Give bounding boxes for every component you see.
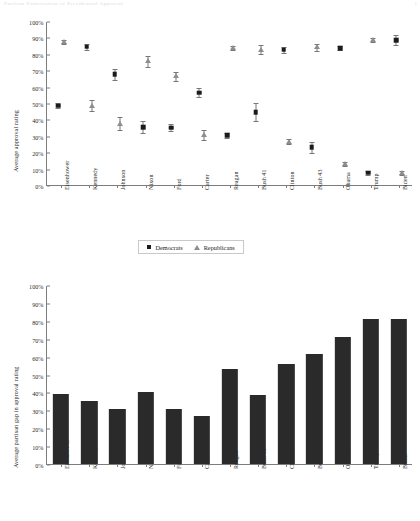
legend-item-democrats: Democrats bbox=[147, 244, 183, 251]
x-axis-label-bush-43: Bush 43 bbox=[317, 170, 323, 191]
y-axis-tick: 60% bbox=[32, 84, 47, 91]
y-axis-tick: 30% bbox=[32, 408, 47, 415]
triangle-marker-icon bbox=[201, 132, 207, 137]
x-axis-tick bbox=[230, 185, 231, 188]
error-bar-cap bbox=[117, 117, 122, 118]
error-bar-cap bbox=[140, 121, 145, 122]
error-bar-cap bbox=[315, 51, 320, 52]
bar-obama bbox=[334, 337, 350, 464]
y-axis-tick: 100% bbox=[29, 19, 47, 26]
x-axis-label-biden: Biden bbox=[402, 175, 408, 190]
triangle-marker-icon bbox=[399, 170, 405, 175]
square-marker-icon bbox=[225, 133, 230, 138]
y-axis-tick: 10% bbox=[32, 166, 47, 173]
bar-ford bbox=[166, 409, 182, 464]
x-axis-label-johnson: Johnson bbox=[120, 170, 126, 190]
y-axis-tick: 20% bbox=[32, 150, 47, 157]
x-axis-tick bbox=[286, 185, 287, 188]
triangle-marker-icon bbox=[258, 47, 264, 52]
y-axis-tick: 80% bbox=[32, 318, 47, 325]
triangle-marker-icon bbox=[145, 58, 151, 63]
error-bar-cap bbox=[89, 100, 94, 101]
x-axis-tick bbox=[371, 185, 372, 188]
error-bar-cap bbox=[253, 103, 258, 104]
x-axis-label-clinton: Clinton bbox=[289, 171, 295, 190]
bar-bush-43 bbox=[306, 354, 322, 464]
square-marker-icon bbox=[84, 44, 89, 49]
triangle-marker-icon bbox=[342, 161, 348, 166]
error-bar-cap bbox=[394, 35, 399, 36]
x-axis-tick bbox=[61, 185, 62, 188]
y-axis-tick: 20% bbox=[32, 426, 47, 433]
square-marker-icon bbox=[147, 245, 151, 249]
x-axis-label-kennedy: Kennedy bbox=[92, 168, 98, 190]
error-bar-cap bbox=[84, 50, 89, 51]
error-bar-cap bbox=[309, 142, 314, 143]
error-bar-cap bbox=[197, 88, 202, 89]
square-marker-icon bbox=[366, 171, 371, 176]
x-axis-label-trump: Trump bbox=[373, 173, 379, 190]
y-axis-tick: 90% bbox=[32, 35, 47, 42]
x-axis-tick bbox=[258, 185, 259, 188]
x-axis-tick bbox=[146, 464, 147, 467]
x-axis-label-obama: Obama bbox=[345, 172, 351, 190]
bar-carter bbox=[194, 416, 210, 464]
error-bar-cap bbox=[89, 111, 94, 112]
bar-trump bbox=[363, 319, 379, 464]
error-bar-cap bbox=[112, 69, 117, 70]
triangle-marker-icon bbox=[61, 39, 67, 44]
x-axis-label-nixon: Nixon bbox=[148, 175, 154, 190]
bar-bush-41 bbox=[250, 395, 266, 464]
error-bar-cap bbox=[202, 130, 207, 131]
error-bar-cap bbox=[309, 153, 314, 154]
error-bar-cap bbox=[146, 56, 151, 57]
x-axis-tick bbox=[343, 464, 344, 467]
y-axis-tick: 0% bbox=[35, 183, 47, 190]
x-axis-tick bbox=[343, 185, 344, 188]
x-axis-tick bbox=[61, 464, 62, 467]
triangle-marker-icon bbox=[173, 73, 179, 78]
triangle-marker-icon bbox=[117, 121, 123, 126]
y-axis-tick: 70% bbox=[32, 68, 47, 75]
error-bar-cap bbox=[197, 97, 202, 98]
triangle-marker-icon bbox=[194, 245, 200, 250]
y-axis-tick: 30% bbox=[32, 133, 47, 140]
y-axis-tick: 60% bbox=[32, 354, 47, 361]
square-marker-icon bbox=[56, 103, 61, 108]
y-axis-tick: 10% bbox=[32, 444, 47, 451]
y-axis-tick: 50% bbox=[32, 101, 47, 108]
triangle-marker-icon bbox=[314, 44, 320, 49]
x-axis-tick bbox=[202, 185, 203, 188]
plot-area-gap: 0%10%20%30%40%50%60%70%80%90%100%Eisenho… bbox=[46, 286, 412, 465]
error-bar-cap bbox=[117, 130, 122, 131]
error-bar-cap bbox=[230, 50, 235, 51]
x-axis-tick bbox=[314, 185, 315, 188]
error-bar-cap bbox=[61, 44, 66, 45]
error-bar-cap bbox=[394, 45, 399, 46]
error-bar-cap bbox=[286, 144, 291, 145]
y-axis-tick: 80% bbox=[32, 51, 47, 58]
bar-eisenhower bbox=[53, 394, 69, 464]
error-bar-cap bbox=[169, 131, 174, 132]
square-marker-icon bbox=[112, 72, 117, 77]
square-marker-icon bbox=[338, 46, 343, 51]
bar-biden bbox=[391, 319, 407, 464]
x-axis-label-reagan: Reagan bbox=[233, 171, 239, 190]
plot-area-approval: 0%10%20%30%40%50%60%70%80%90%100%Eisenho… bbox=[46, 22, 412, 186]
x-axis-tick bbox=[371, 464, 372, 467]
square-marker-icon bbox=[253, 110, 258, 115]
x-axis-tick bbox=[117, 464, 118, 467]
error-bar-cap bbox=[56, 108, 61, 109]
square-marker-icon bbox=[310, 145, 315, 150]
error-bar-cap bbox=[202, 140, 207, 141]
bar-reagan bbox=[222, 369, 238, 464]
x-axis-tick bbox=[174, 464, 175, 467]
partisan-gap-bar-chart: Average partisan gap in approval rating … bbox=[0, 282, 420, 521]
error-bar-cap bbox=[258, 54, 263, 55]
x-axis-tick bbox=[399, 464, 400, 467]
x-axis-tick bbox=[258, 464, 259, 467]
chart-legend: Democrats Republicans bbox=[138, 240, 244, 254]
approval-rating-scatter-chart: Average approval rating 0%10%20%30%40%50… bbox=[0, 0, 420, 248]
x-axis-label-carter: Carter bbox=[204, 174, 210, 190]
error-bar-cap bbox=[253, 121, 258, 122]
